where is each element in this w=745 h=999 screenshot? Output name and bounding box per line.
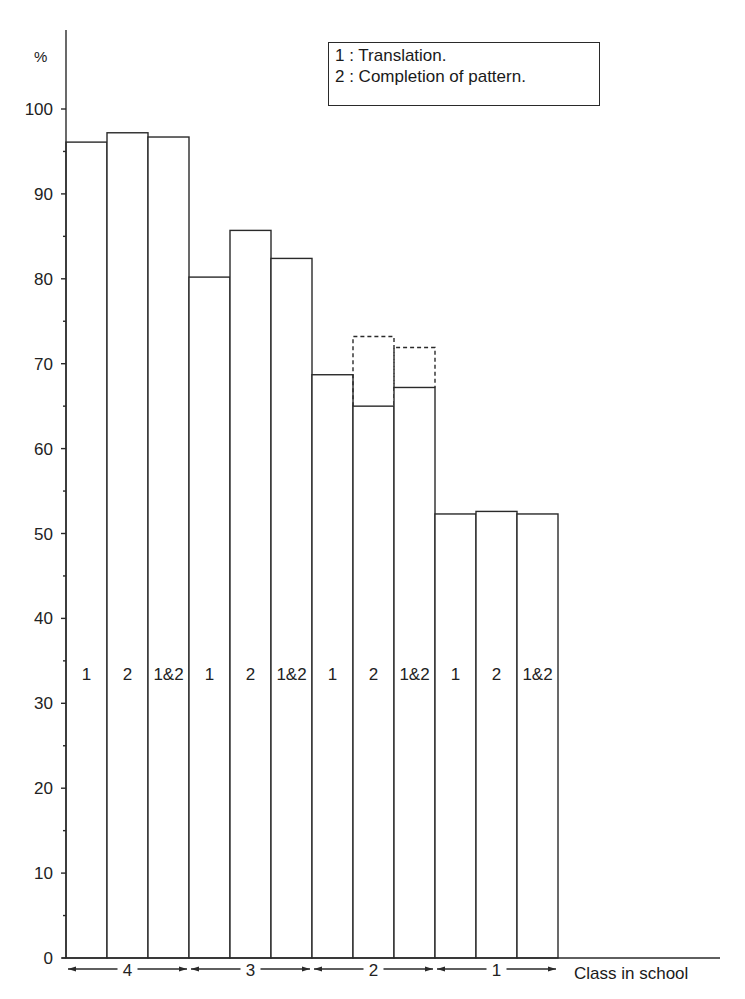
class-label: 2 xyxy=(369,961,378,980)
bar-class-4-1&2 xyxy=(148,137,189,958)
bar-label: 1 xyxy=(82,665,91,684)
legend-entry-translation: 1 : Translation. xyxy=(335,45,593,66)
arrow-right-icon xyxy=(548,967,556,972)
x-axis-label: Class in school xyxy=(574,964,688,984)
y-tick-label: 10 xyxy=(34,864,53,883)
dashed-bar-outline xyxy=(353,337,394,407)
y-tick-label: 0 xyxy=(44,949,53,968)
bar-class-1-1&2 xyxy=(517,514,558,958)
arrow-left-icon xyxy=(314,967,322,972)
bar-label: 1&2 xyxy=(153,665,183,684)
bar-label: 2 xyxy=(123,665,132,684)
bar-class-4-1 xyxy=(66,142,107,958)
dashed-bar-outline xyxy=(394,348,435,388)
y-tick-label: 70 xyxy=(34,355,53,374)
class-label: 3 xyxy=(246,961,255,980)
bar-class-1-2 xyxy=(476,511,517,958)
bar-label: 1&2 xyxy=(399,665,429,684)
y-tick-label: 20 xyxy=(34,779,53,798)
bar-label: 1 xyxy=(451,665,460,684)
bar-class-3-1&2 xyxy=(271,258,312,958)
arrow-left-icon xyxy=(68,967,76,972)
y-tick-label: 80 xyxy=(34,270,53,289)
bar-class-4-2 xyxy=(107,133,148,958)
legend-entry-completion: 2 : Completion of pattern. xyxy=(335,66,593,87)
y-tick-label: 60 xyxy=(34,440,53,459)
class-label: 1 xyxy=(492,961,501,980)
y-tick-label: 40 xyxy=(34,609,53,628)
bar-class-3-2 xyxy=(230,230,271,958)
arrow-right-icon xyxy=(302,967,310,972)
bar-class-3-1 xyxy=(189,277,230,958)
bar-chart: 0102030405060708090100 121&2121&2121&212… xyxy=(0,0,745,999)
y-tick-label: 100 xyxy=(25,100,53,119)
bar-label: 2 xyxy=(369,665,378,684)
class-label: 4 xyxy=(123,961,132,980)
bar-class-1-1 xyxy=(435,514,476,958)
class-axis: 4321 xyxy=(68,961,556,980)
arrow-left-icon xyxy=(437,967,445,972)
y-axis-label: % xyxy=(34,48,47,65)
legend: 1 : Translation. 2 : Completion of patte… xyxy=(328,42,600,106)
y-ticks: 0102030405060708090100 xyxy=(25,100,66,968)
arrow-right-icon xyxy=(179,967,187,972)
bar-label: 1 xyxy=(205,665,214,684)
bar-label: 1&2 xyxy=(522,665,552,684)
bars-layer xyxy=(66,133,558,958)
y-tick-label: 90 xyxy=(34,185,53,204)
arrow-left-icon xyxy=(191,967,199,972)
bar-label: 2 xyxy=(246,665,255,684)
y-tick-label: 50 xyxy=(34,525,53,544)
bar-label: 2 xyxy=(492,665,501,684)
bar-label: 1 xyxy=(328,665,337,684)
bar-label: 1&2 xyxy=(276,665,306,684)
y-tick-label: 30 xyxy=(34,694,53,713)
arrow-right-icon xyxy=(425,967,433,972)
